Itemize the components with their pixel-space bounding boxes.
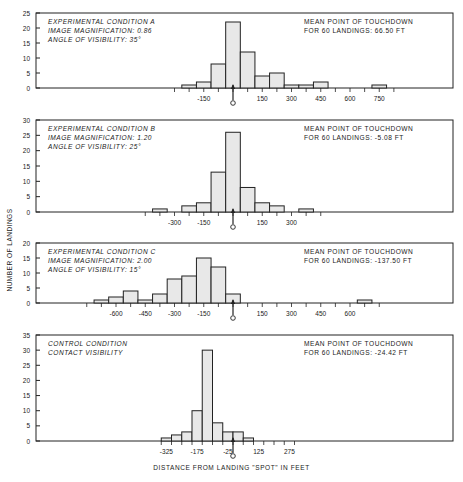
x-tick-label: -175 <box>191 448 204 455</box>
histogram-bar <box>299 85 314 88</box>
y-tick-label: 20 <box>23 240 31 247</box>
panel-caption-line: ANGLE OF VISIBILITY: 25° <box>47 143 141 150</box>
x-axis-label: DISTANCE FROM LANDING "SPOT" IN FEET <box>0 464 463 471</box>
y-axis-label-text: NUMBER OF LANDINGS <box>6 208 13 291</box>
x-tick-label: -300 <box>168 219 181 226</box>
x-tick-label: 450 <box>315 95 326 102</box>
panel-1: 051015202530-300-150150300EXPERIMENTAL C… <box>23 117 453 230</box>
histogram-bar <box>182 432 192 441</box>
histogram-bar <box>233 432 243 441</box>
histogram-bar <box>192 411 202 441</box>
x-tick-label: -325 <box>160 448 173 455</box>
y-tick-label: 10 <box>23 407 31 414</box>
y-tick-label: 0 <box>26 209 30 216</box>
y-tick-label: 15 <box>23 163 31 170</box>
y-tick-label: 5 <box>26 70 30 77</box>
histogram-bar <box>167 279 182 303</box>
zero-marker-circle-icon <box>231 225 236 230</box>
histogram-bar <box>243 438 253 441</box>
x-tick-label: 600 <box>345 310 356 317</box>
panel-caption-line: ANGLE OF VISIBILITY: 15° <box>47 266 141 273</box>
histogram-bar <box>255 76 270 88</box>
y-tick-label: 25 <box>23 362 31 369</box>
histogram-bar <box>255 203 270 212</box>
histogram-bar <box>213 423 223 441</box>
mean-touchdown-annotation: MEAN POINT OF TOUCHDOWN <box>304 340 413 347</box>
zero-marker-circle-icon <box>231 454 236 459</box>
histogram-bar <box>109 297 124 303</box>
y-tick-label: 5 <box>26 285 30 292</box>
y-tick-label: 5 <box>26 193 30 200</box>
histogram-bar <box>196 82 211 88</box>
x-tick-label: -600 <box>109 310 122 317</box>
histogram-bar <box>161 438 171 441</box>
histogram-bar <box>153 294 168 303</box>
y-tick-label: 25 <box>23 132 31 139</box>
zero-marker-circle-icon <box>231 101 236 106</box>
histogram-bar <box>270 73 285 88</box>
y-tick-label: 5 <box>26 422 30 429</box>
histogram-bar <box>153 209 168 212</box>
x-tick-label: 125 <box>253 448 264 455</box>
mean-touchdown-annotation: FOR 60 LANDINGS: 66.50 FT <box>304 27 405 34</box>
histogram-bar <box>313 82 328 88</box>
histogram-bar <box>182 276 197 303</box>
mean-touchdown-annotation: FOR 60 LANDINGS: -137.50 FT <box>304 257 412 264</box>
x-tick-label: -150 <box>197 310 210 317</box>
panel-caption-line: IMAGE MAGNIFICATION: 0.86 <box>48 27 152 34</box>
zero-marker-circle-icon <box>231 316 236 321</box>
histogram-bar <box>299 209 314 212</box>
x-tick-label: 750 <box>374 95 385 102</box>
histogram-bar <box>138 300 153 303</box>
y-tick-label: 15 <box>23 392 31 399</box>
y-tick-label: 20 <box>23 147 31 154</box>
histogram-bar <box>196 258 211 303</box>
histogram-bar <box>202 350 212 441</box>
histogram-bar <box>226 132 241 212</box>
panel-caption-line: ANGLE OF VISIBILITY: 35° <box>47 36 141 43</box>
panel-3: 05101520253035-325-175-25125275CONTROL C… <box>23 332 453 459</box>
histogram-bar <box>196 203 211 212</box>
x-tick-label: 150 <box>257 219 268 226</box>
x-tick-label: -450 <box>139 310 152 317</box>
histogram-bar <box>284 85 299 88</box>
panel-caption-line: EXPERIMENTAL CONDITION A <box>48 18 155 25</box>
x-tick-label: 150 <box>257 310 268 317</box>
histogram-bar <box>270 206 285 212</box>
histogram-bar <box>372 85 387 88</box>
panel-caption-line: CONTROL CONDITION <box>48 340 127 347</box>
y-tick-label: 30 <box>23 117 31 124</box>
y-tick-label: 15 <box>23 255 31 262</box>
histogram-bar <box>182 206 197 212</box>
x-tick-label: 300 <box>286 95 297 102</box>
panel-caption-line: IMAGE MAGNIFICATION: 1.20 <box>48 134 152 141</box>
histogram-bar <box>172 435 182 441</box>
x-tick-label: 600 <box>345 95 356 102</box>
y-tick-label: 0 <box>26 300 30 307</box>
histogram-bar <box>94 300 109 303</box>
panel-2: 05101520-600-450-300-150150300450600EXPE… <box>23 240 453 321</box>
x-tick-label: -300 <box>168 310 181 317</box>
x-tick-label: 275 <box>284 448 295 455</box>
x-tick-label: 150 <box>257 95 268 102</box>
histogram-bar <box>240 187 255 212</box>
x-tick-label: 300 <box>286 310 297 317</box>
mean-touchdown-annotation: MEAN POINT OF TOUCHDOWN <box>304 248 413 255</box>
y-tick-label: 30 <box>23 347 31 354</box>
histogram-bar <box>357 300 372 303</box>
histogram-bar <box>223 432 233 441</box>
mean-touchdown-annotation: FOR 60 LANDINGS: -5.08 FT <box>304 134 404 141</box>
y-tick-label: 0 <box>26 438 30 445</box>
panel-caption-line: EXPERIMENTAL CONDITION B <box>48 125 155 132</box>
histogram-bar <box>240 52 255 88</box>
x-tick-label: -150 <box>197 219 210 226</box>
mean-touchdown-annotation: FOR 60 LANDINGS: -24.42 FT <box>304 349 408 356</box>
x-tick-label: 450 <box>315 310 326 317</box>
panel-caption-line: EXPERIMENTAL CONDITION C <box>48 248 156 255</box>
panel-caption-line: CONTACT VISIBILITY <box>48 349 123 356</box>
histogram-bar <box>226 22 241 88</box>
x-tick-label: 300 <box>286 219 297 226</box>
mean-touchdown-annotation: MEAN POINT OF TOUCHDOWN <box>304 125 413 132</box>
y-axis-label: NUMBER OF LANDINGS <box>2 190 16 310</box>
histogram-bar <box>211 64 226 88</box>
